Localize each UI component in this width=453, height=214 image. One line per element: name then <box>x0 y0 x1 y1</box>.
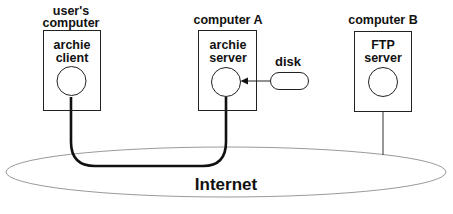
archie-diagram: Internet user's computer archie client c… <box>0 0 453 214</box>
disk: disk <box>241 54 309 90</box>
archie-server-label-line1: archie <box>210 38 247 52</box>
archie-client-label-line2: client <box>56 51 89 65</box>
disk-label: disk <box>275 54 302 69</box>
archie-server-label-line2: server <box>209 51 247 65</box>
arrowhead-icon <box>241 78 249 85</box>
ftp-server-label-line1: FTP <box>371 38 395 52</box>
computer-a: computer A archie server <box>194 13 263 111</box>
archie-server-process-icon <box>212 68 241 97</box>
archie-client-label-line1: archie <box>54 38 91 52</box>
internet-label: Internet <box>195 175 258 194</box>
ftp-server-process-icon <box>369 68 398 97</box>
archie-client-process-icon <box>57 67 86 96</box>
user-computer: user's computer archie client <box>43 4 101 111</box>
user-computer-title-line2: computer <box>43 16 100 30</box>
computer-a-title: computer A <box>194 13 263 27</box>
disk-icon <box>271 73 309 90</box>
ftp-server-label-line2: server <box>364 51 402 65</box>
computer-b: computer B FTP server <box>348 13 417 155</box>
client-server-connection <box>71 97 226 166</box>
computer-b-title: computer B <box>348 13 417 27</box>
